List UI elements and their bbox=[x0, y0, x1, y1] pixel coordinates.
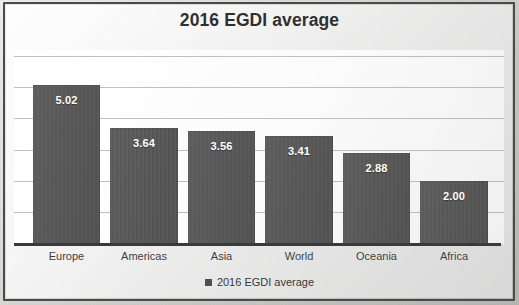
category-label-europe: Europe bbox=[33, 250, 100, 262]
bar-americas[interactable]: 3.64 bbox=[110, 128, 178, 244]
bar-value-label: 3.56 bbox=[188, 140, 255, 152]
bar-africa[interactable]: 2.00 bbox=[420, 181, 488, 244]
category-label-oceania: Oceania bbox=[343, 250, 410, 262]
bar-asia[interactable]: 3.56 bbox=[188, 131, 255, 244]
plot-area: 5.02 3.64 3.56 3.41 2.88 2.00 bbox=[14, 50, 504, 244]
chart-title: 2016 EGDI average bbox=[0, 10, 519, 31]
bar-value-label: 2.88 bbox=[343, 162, 410, 174]
legend-square-marker-icon bbox=[205, 279, 212, 286]
bar-value-label: 2.00 bbox=[420, 190, 488, 202]
category-label-asia: Asia bbox=[188, 250, 255, 262]
category-label-americas: Americas bbox=[110, 250, 178, 262]
bar-value-label: 5.02 bbox=[33, 94, 100, 106]
bar-oceania[interactable]: 2.88 bbox=[343, 153, 410, 244]
chart-legend: 2016 EGDI average bbox=[0, 276, 519, 288]
bar-world[interactable]: 3.41 bbox=[265, 136, 333, 244]
category-label-africa: Africa bbox=[420, 250, 488, 262]
category-axis-line bbox=[14, 243, 501, 246]
category-label-world: World bbox=[265, 250, 333, 262]
bar-europe[interactable]: 5.02 bbox=[33, 85, 100, 244]
bar-value-label: 3.41 bbox=[265, 145, 333, 157]
bar-value-label: 3.64 bbox=[110, 137, 178, 149]
photographed-page: 2016 EGDI average 5.02 3.64 3.56 3.41 2.… bbox=[0, 0, 519, 305]
legend-label: 2016 EGDI average bbox=[217, 276, 314, 288]
gridline bbox=[14, 56, 504, 57]
